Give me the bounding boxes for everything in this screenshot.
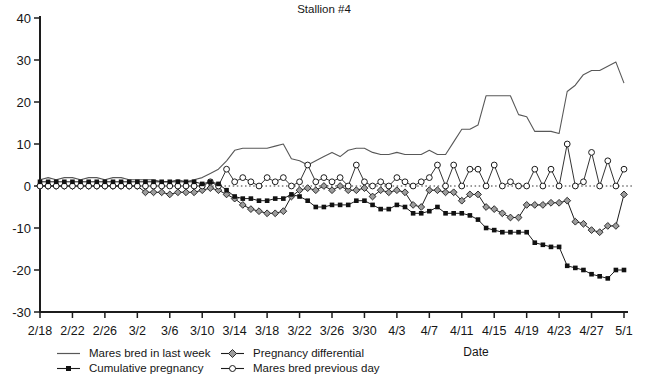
svg-text:-30: -30 bbox=[12, 305, 31, 320]
legend-label: Mares bred previous day bbox=[253, 362, 380, 374]
legend-label: Pregnancy differential bbox=[253, 347, 364, 359]
svg-text:4/19: 4/19 bbox=[514, 324, 538, 338]
svg-text:2/26: 2/26 bbox=[93, 324, 117, 338]
legend-label: Mares bred in last week bbox=[89, 347, 210, 359]
svg-text:3/2: 3/2 bbox=[129, 324, 146, 338]
x-tick-labels: 2/182/222/263/23/63/103/143/183/223/263/… bbox=[28, 312, 633, 338]
legend-item-mares-bred-previous-day: Mares bred previous day bbox=[220, 362, 380, 374]
diamond-marker-icon bbox=[220, 348, 246, 359]
svg-text:3/10: 3/10 bbox=[190, 324, 214, 338]
svg-text:0: 0 bbox=[24, 179, 31, 194]
series-mares-bred-in-last-week bbox=[40, 62, 624, 182]
svg-text:-10: -10 bbox=[12, 221, 31, 236]
svg-text:40: 40 bbox=[17, 11, 31, 26]
x-axis-title: Date bbox=[452, 345, 500, 359]
svg-text:3/22: 3/22 bbox=[287, 324, 311, 338]
svg-text:3/6: 3/6 bbox=[161, 324, 178, 338]
legend-item-cumulative-pregnancy: Cumulative pregnancy bbox=[56, 362, 203, 374]
legend-item-pregnancy-differential: Pregnancy differential bbox=[220, 347, 364, 359]
solid-line-icon bbox=[56, 349, 82, 358]
axes bbox=[39, 16, 628, 313]
legend-label: Cumulative pregnancy bbox=[89, 362, 203, 374]
legend-item-mares-bred-last-week: Mares bred in last week bbox=[56, 347, 210, 359]
svg-text:4/27: 4/27 bbox=[579, 324, 603, 338]
svg-text:30: 30 bbox=[17, 53, 31, 68]
plot-area: 403020100-10-20-302/182/222/263/23/63/10… bbox=[0, 0, 648, 345]
series-cumulative-pregnancy bbox=[38, 180, 627, 281]
svg-text:5/1: 5/1 bbox=[615, 324, 632, 338]
chart-figure: Stallion #4 403020100-10-20-302/182/222/… bbox=[0, 0, 648, 385]
series-pregnancy-differential bbox=[37, 183, 628, 236]
svg-text:4/3: 4/3 bbox=[388, 324, 405, 338]
svg-text:4/15: 4/15 bbox=[482, 324, 506, 338]
svg-text:2/18: 2/18 bbox=[28, 324, 52, 338]
svg-text:4/7: 4/7 bbox=[421, 324, 438, 338]
svg-text:20: 20 bbox=[17, 95, 31, 110]
svg-text:3/30: 3/30 bbox=[352, 324, 376, 338]
svg-text:10: 10 bbox=[17, 137, 31, 152]
svg-text:-20: -20 bbox=[12, 263, 31, 278]
open-circle-marker-icon bbox=[220, 364, 246, 373]
svg-text:4/11: 4/11 bbox=[450, 324, 473, 338]
svg-text:3/14: 3/14 bbox=[222, 324, 246, 338]
svg-text:3/18: 3/18 bbox=[255, 324, 279, 338]
svg-text:2/22: 2/22 bbox=[60, 324, 84, 338]
filled-square-marker-icon bbox=[56, 364, 82, 373]
svg-text:4/23: 4/23 bbox=[547, 324, 571, 338]
y-tick-labels: 403020100-10-20-30 bbox=[12, 11, 40, 320]
svg-text:3/26: 3/26 bbox=[320, 324, 344, 338]
